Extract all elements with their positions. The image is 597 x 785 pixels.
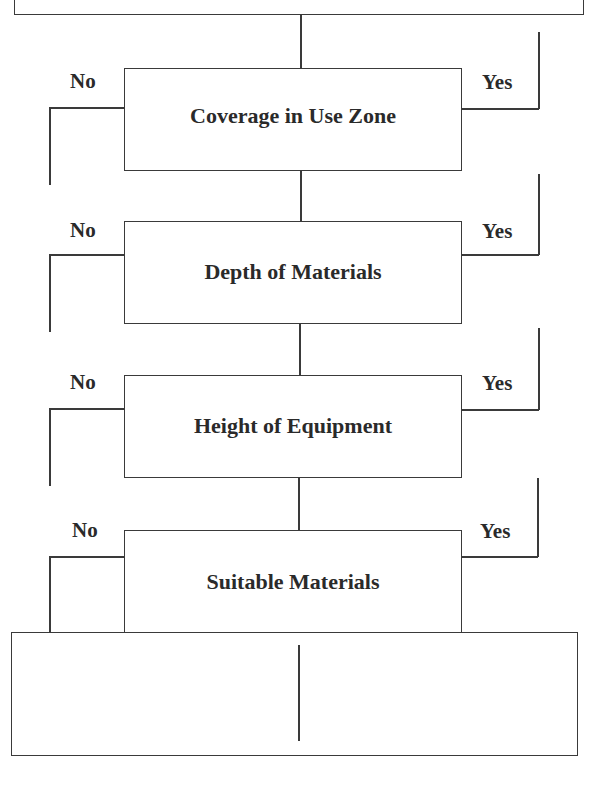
- no-connector: [49, 107, 124, 109]
- yes-connector: [462, 409, 539, 411]
- yes-label: Yes: [482, 70, 512, 95]
- result-box: [11, 632, 578, 756]
- result-divider: [298, 645, 300, 741]
- yes-label: Yes: [482, 371, 512, 396]
- yes-connector: [462, 254, 539, 256]
- decision-box-suitable: Suitable Materials: [124, 530, 462, 634]
- top-box: [14, 0, 584, 15]
- yes-connector: [538, 32, 540, 109]
- no-connector: [49, 408, 124, 410]
- yes-connector: [462, 108, 539, 110]
- decision-label: Height of Equipment: [125, 413, 461, 439]
- yes-connector: [462, 556, 538, 558]
- no-connector: [49, 408, 51, 486]
- yes-connector: [538, 174, 540, 255]
- no-label: No: [70, 69, 96, 94]
- decision-label: Depth of Materials: [125, 259, 461, 285]
- yes-label: Yes: [482, 219, 512, 244]
- decision-label: Coverage in Use Zone: [125, 103, 461, 129]
- decision-box-coverage: Coverage in Use Zone: [124, 68, 462, 171]
- no-connector: [49, 254, 51, 332]
- no-connector: [49, 556, 51, 633]
- connector: [299, 324, 301, 376]
- no-label: No: [72, 518, 98, 543]
- decision-box-depth: Depth of Materials: [124, 221, 462, 324]
- no-connector: [49, 107, 51, 185]
- no-connector: [49, 254, 124, 256]
- no-label: No: [70, 218, 96, 243]
- decision-box-height: Height of Equipment: [124, 375, 462, 478]
- yes-label: Yes: [480, 519, 510, 544]
- no-label: No: [70, 370, 96, 395]
- connector: [300, 14, 302, 69]
- no-connector: [49, 556, 124, 558]
- yes-connector: [538, 328, 540, 410]
- decision-label: Suitable Materials: [125, 569, 461, 595]
- connector: [298, 478, 300, 531]
- yes-connector: [537, 478, 539, 557]
- connector: [300, 171, 302, 222]
